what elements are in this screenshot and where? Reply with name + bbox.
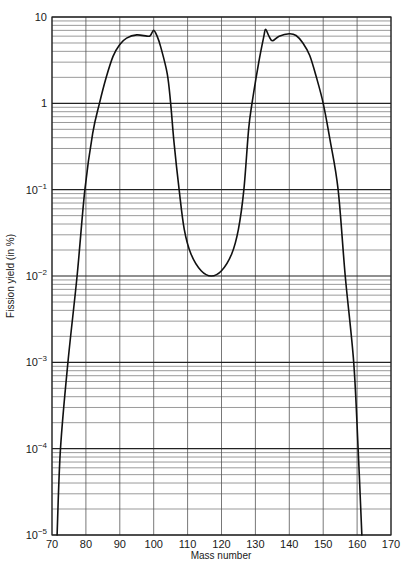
x-tick-label: 70 (46, 538, 58, 550)
x-tick-label: 80 (80, 538, 92, 550)
y-tick-label: 10−3 (26, 354, 48, 368)
y-tick-label: 10−1 (26, 182, 48, 196)
x-tick-label: 120 (212, 538, 230, 550)
y-axis-label: Fission yield (in %) (5, 234, 16, 318)
y-tick-label: 10−2 (26, 268, 48, 282)
x-tick-label: 160 (348, 538, 366, 550)
x-axis-tick-labels: 708090100110120130140150160170 (46, 538, 400, 550)
y-axis-tick-labels: 10110−110−210−310−410−5 (26, 11, 48, 541)
fission-yield-chart: 10110−110−210−310−410−5 7080901001101201… (0, 0, 406, 566)
y-tick-label: 10−4 (26, 441, 48, 455)
x-tick-label: 140 (280, 538, 298, 550)
x-tick-label: 150 (314, 538, 332, 550)
y-tick-label: 10 (35, 11, 47, 23)
x-axis-label: Mass number (191, 550, 252, 561)
yield-curve (57, 29, 362, 535)
y-tick-label: 1 (41, 97, 47, 109)
x-tick-label: 90 (114, 538, 126, 550)
x-tick-label: 130 (246, 538, 264, 550)
x-tick-label: 100 (145, 538, 163, 550)
y-tick-label: 10−5 (26, 527, 48, 541)
x-tick-label: 170 (382, 538, 400, 550)
x-tick-label: 110 (179, 538, 197, 550)
